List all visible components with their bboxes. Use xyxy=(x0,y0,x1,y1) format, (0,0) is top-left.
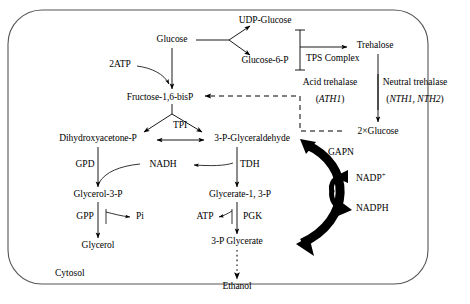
label-nth-genes: (NTH1, NTH2) xyxy=(386,95,444,105)
label-atp: ATP xyxy=(197,212,214,222)
edge-pi xyxy=(106,212,130,217)
label-tpi: TPI xyxy=(173,121,187,131)
node-pi: Pi xyxy=(136,212,144,222)
label-neutral-trehalase: Neutral trehalase xyxy=(383,78,448,88)
label-ath1: (ATH1) xyxy=(316,95,345,105)
label-gapn: GAPN xyxy=(328,148,354,158)
label-tdh: TDH xyxy=(240,160,260,170)
node-3-p-glycerate: 3-P Glycerate xyxy=(211,237,263,247)
node-udp-glucose: UDP-Glucose xyxy=(239,16,292,26)
node-2x-glucose: 2×Glucose xyxy=(358,127,399,137)
nadp-superscript: + xyxy=(382,171,386,179)
edge-atp-out xyxy=(219,211,232,217)
label-gpp: GPP xyxy=(76,212,93,222)
node-fructose-1-6-bisp: Fructose-1,6-bisP xyxy=(127,93,193,103)
node-glucose-6-p: Glucose-6-P xyxy=(242,56,289,66)
edge-glucose-fork xyxy=(196,26,250,55)
edge-tdh-nadh xyxy=(194,163,233,166)
label-nth-gene: NTH1, NTH2 xyxy=(389,94,440,104)
node-nadph: NADPH xyxy=(356,204,388,214)
pathway-diagram: Glucose UDP-Glucose Glucose-6-P Trehalos… xyxy=(0,0,470,304)
node-dihydroxyacetone-p: Dihydroxyacetone-P xyxy=(59,134,137,144)
node-nadh: NADH xyxy=(149,160,176,170)
node-3-p-glyceraldehyde: 3-P-Glyceraldehyde xyxy=(214,134,290,144)
edge-tps-bracket xyxy=(295,30,347,70)
label-gpd: GPD xyxy=(75,160,94,170)
edge-nadh-gpd xyxy=(99,164,140,183)
edge-gapn-arc xyxy=(302,145,340,243)
node-glycerol-3-p: Glycerol-3-P xyxy=(74,190,123,200)
label-cytosol: Cytosol xyxy=(55,268,85,278)
node-glycerol: Glycerol xyxy=(82,241,115,251)
node-ethanol: Ethanol xyxy=(222,282,251,292)
pathway-graphics xyxy=(0,0,470,304)
label-ath1-gene: ATH1 xyxy=(319,94,341,104)
edge-2atp xyxy=(137,66,169,84)
label-tps-complex: TPS Complex xyxy=(306,54,360,64)
label-pgk: PGK xyxy=(243,212,262,222)
node-glycerate-1-3-p: Glycerate-1, 3-P xyxy=(209,190,271,200)
nadp-text: NADP xyxy=(356,173,382,183)
label-acid-trehalase: Acid trehalase xyxy=(303,78,358,88)
node-glucose: Glucose xyxy=(157,35,188,45)
label-2atp: 2ATP xyxy=(109,60,131,70)
node-nadp-plus: NADP+ xyxy=(356,172,386,184)
nadph-arrowhead xyxy=(338,201,352,216)
node-trehalose: Trehalose xyxy=(357,41,394,51)
